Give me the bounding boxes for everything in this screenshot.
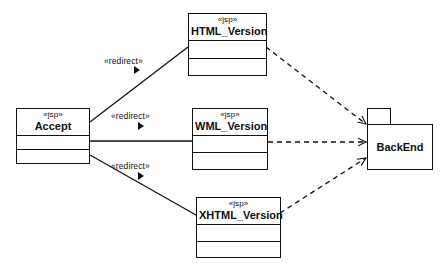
node-xhtml-version-operations: [197, 242, 280, 257]
node-backend-name: BackEnd: [376, 141, 423, 153]
node-wml-version-header: «jsp» WML_Version: [193, 109, 267, 136]
edge-label-redirect-html: «redirect»: [104, 56, 143, 66]
node-accept-name: Accept: [19, 120, 87, 132]
node-wml-version-attributes: [193, 136, 267, 153]
node-backend-body: BackEnd: [367, 124, 433, 170]
node-accept-header: «jsp» Accept: [17, 109, 89, 136]
node-accept-stereotype: «jsp»: [19, 111, 87, 120]
edge-dependency-html-backend: [266, 47, 366, 124]
node-accept[interactable]: «jsp» Accept: [16, 108, 90, 164]
node-xhtml-version-name: XHTML_Version: [199, 209, 278, 221]
node-html-version[interactable]: «jsp» HTML_Version: [188, 13, 267, 76]
direction-marker-wml: [138, 122, 144, 130]
direction-marker-xhtml: [138, 172, 144, 180]
node-backend-tab: [367, 108, 391, 125]
node-backend[interactable]: BackEnd: [367, 108, 433, 170]
node-html-version-operations: [189, 59, 266, 75]
node-wml-version-stereotype: «jsp»: [195, 111, 265, 120]
node-wml-version-name: WML_Version: [195, 120, 265, 132]
direction-marker-html: [134, 66, 140, 74]
node-html-version-attributes: [189, 41, 266, 58]
node-html-version-name: HTML_Version: [191, 25, 264, 37]
node-xhtml-version-header: «jsp» XHTML_Version: [197, 198, 280, 225]
node-xhtml-version-attributes: [197, 225, 280, 241]
node-xhtml-version-stereotype: «jsp»: [199, 200, 278, 209]
node-accept-attributes: [17, 136, 89, 150]
node-xhtml-version[interactable]: «jsp» XHTML_Version: [196, 197, 281, 258]
node-html-version-stereotype: «jsp»: [191, 16, 264, 25]
uml-diagram-canvas: «jsp» Accept «jsp» HTML_Version «jsp» WM…: [0, 0, 447, 274]
edge-dependency-xhtml-backend: [280, 158, 366, 213]
node-wml-version-operations: [193, 153, 267, 169]
edge-label-redirect-wml: «redirect»: [111, 111, 150, 121]
edge-label-redirect-xhtml: «redirect»: [111, 161, 150, 171]
node-html-version-header: «jsp» HTML_Version: [189, 14, 266, 41]
node-wml-version[interactable]: «jsp» WML_Version: [192, 108, 268, 170]
node-accept-operations: [17, 150, 89, 163]
